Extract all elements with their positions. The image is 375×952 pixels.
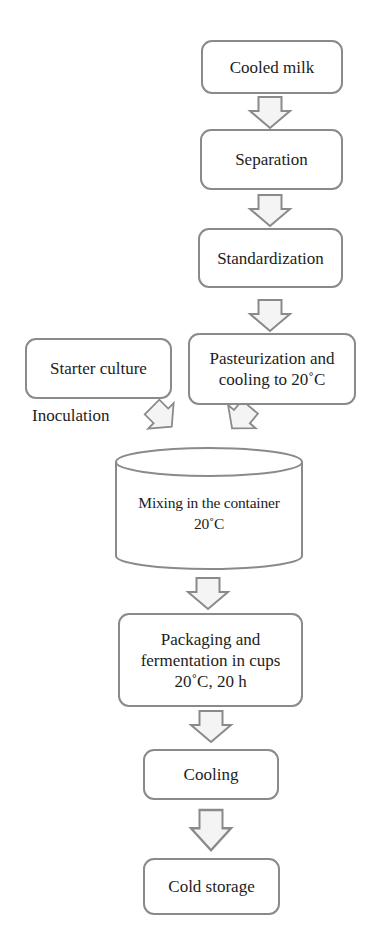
arrow-cooling-to-cold-storage [191,810,231,850]
node-label-line-2: cooling to 20˚C [219,369,326,390]
arrow-standardization-to-pasteurization [250,300,290,331]
node-label-line-3: 20˚C, 20 h [174,671,246,692]
arrow-mixing-to-packaging [188,578,228,609]
arrow-inoculation-to-mixing [139,394,184,439]
node-mixing-label: Mixing in the container 20˚C [116,492,302,534]
node-label: Standardization [217,248,324,269]
node-cooled-milk: Cooled milk [201,40,343,94]
node-label-line-1: Mixing in the container [116,492,302,513]
node-cold-storage: Cold storage [143,858,280,915]
node-label: Separation [235,149,308,170]
node-label-line-2: 20˚C [116,513,302,534]
arrow-cooled-milk-to-separation [250,97,290,128]
node-standardization: Standardization [198,228,343,288]
node-label-line-1: Packaging and [161,629,261,650]
arrow-packaging-to-cooling [191,711,231,742]
node-packaging: Packaging and fermentation in cups 20˚C,… [118,613,303,707]
node-label: Cooling [184,764,239,785]
node-label-line-2: fermentation in cups [141,650,281,671]
node-label: Cold storage [168,876,254,897]
node-starter-culture: Starter culture [25,338,172,399]
node-pasteurization: Pasteurization and cooling to 20˚C [188,333,356,405]
node-label: Cooled milk [230,57,315,78]
node-separation: Separation [200,129,343,190]
node-label-line-1: Pasteurization and [209,348,334,369]
node-cooling: Cooling [143,749,279,800]
node-label: Starter culture [50,358,147,379]
arrow-separation-to-standardization [250,195,290,226]
edge-label-inoculation: Inoculation [32,406,109,426]
